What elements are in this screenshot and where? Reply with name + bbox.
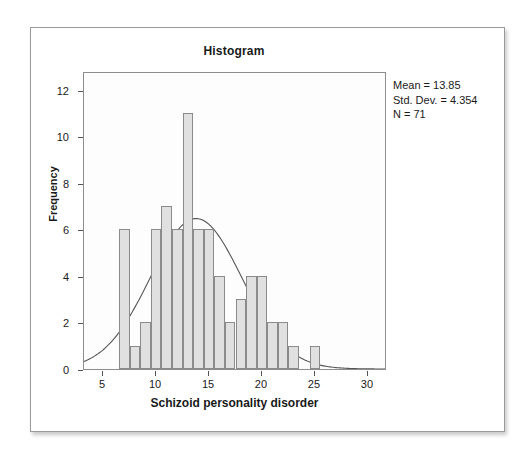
x-axis-tick-mark bbox=[261, 371, 262, 376]
scanned-page-frame: Histogram Frequency 024681012 Schizoid p… bbox=[30, 27, 505, 432]
statistics-annotation: Mean = 13.85 Std. Dev. = 4.354 N = 71 bbox=[393, 78, 478, 122]
x-axis-tick-mark bbox=[314, 371, 315, 376]
histogram-chart: Histogram Frequency 024681012 Schizoid p… bbox=[31, 28, 506, 433]
y-axis-tick-label: 0 bbox=[45, 364, 69, 376]
histogram-bar bbox=[225, 322, 236, 369]
y-axis: Frequency 024681012 bbox=[31, 28, 83, 433]
histogram-bar bbox=[278, 322, 289, 369]
histogram-bar bbox=[151, 229, 162, 369]
histogram-bar bbox=[161, 206, 172, 369]
histogram-bar bbox=[214, 276, 225, 369]
histogram-bar bbox=[267, 322, 278, 369]
x-axis-tick-label: 25 bbox=[299, 378, 329, 390]
histogram-bar bbox=[172, 229, 183, 369]
histogram-bar bbox=[119, 229, 130, 369]
x-axis-tick-mark bbox=[155, 371, 156, 376]
y-axis-tick-label: 6 bbox=[45, 224, 69, 236]
y-axis-tick-label: 2 bbox=[45, 317, 69, 329]
x-axis-tick-label: 20 bbox=[246, 378, 276, 390]
plot-area bbox=[83, 72, 386, 370]
sample-size-text: N = 71 bbox=[393, 107, 478, 122]
histogram-bar bbox=[236, 299, 247, 369]
y-axis-tick-label: 10 bbox=[45, 131, 69, 143]
x-axis-tick-label: 5 bbox=[87, 378, 117, 390]
histogram-bar bbox=[193, 229, 204, 369]
histogram-bar bbox=[130, 346, 141, 369]
y-axis-tick-mark bbox=[78, 370, 83, 371]
y-axis-tick-label: 8 bbox=[45, 178, 69, 190]
chart-title: Histogram bbox=[79, 44, 389, 58]
histogram-bar bbox=[140, 322, 151, 369]
histogram-bar bbox=[310, 346, 321, 369]
histogram-bar bbox=[246, 276, 257, 369]
histogram-bar bbox=[183, 113, 194, 369]
x-axis-tick-label: 30 bbox=[352, 378, 382, 390]
std-dev-text: Std. Dev. = 4.354 bbox=[393, 93, 478, 108]
mean-text: Mean = 13.85 bbox=[393, 78, 478, 93]
x-axis-tick-mark bbox=[367, 371, 368, 376]
histogram-bar bbox=[204, 229, 215, 369]
histogram-bar bbox=[257, 276, 268, 369]
x-axis-title: Schizoid personality disorder bbox=[83, 396, 386, 410]
x-axis-tick-label: 10 bbox=[140, 378, 170, 390]
x-axis-tick-mark bbox=[102, 371, 103, 376]
histogram-bar bbox=[288, 346, 299, 369]
x-axis-tick-label: 15 bbox=[193, 378, 223, 390]
y-axis-tick-label: 12 bbox=[45, 85, 69, 97]
y-axis-tick-label: 4 bbox=[45, 271, 69, 283]
x-axis-tick-mark bbox=[208, 371, 209, 376]
